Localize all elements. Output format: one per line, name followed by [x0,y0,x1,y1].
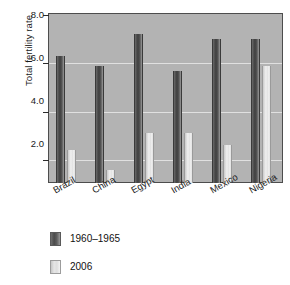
chart-figure: Total fertility rate 8.0 6.0 4.0 2.0 Bra… [0,0,290,285]
y-tick-8 [43,15,49,16]
gridline-4 [49,112,282,113]
bar-nigeria-series1 [251,39,260,183]
bar-nigeria-series2 [262,66,271,183]
y-tick-4 [43,112,49,113]
legend-label-1960-1965: 1960–1965 [70,233,120,244]
bar-china-series1 [95,66,104,183]
legend-swatch-1960-1965 [50,232,61,246]
bar-mexico-series1 [212,39,221,183]
bar-egypt-series1 [134,34,143,183]
gridline-2 [49,160,282,161]
plot-area [48,13,283,183]
y-tick-label-2: 2.0 [31,138,44,149]
y-tick-label-4: 4.0 [31,95,44,106]
bar-brazil-series1 [56,56,65,183]
legend-item-2006: 2006 [50,258,120,275]
legend-item-1960-1965: 1960–1965 [50,230,120,247]
y-tick-6 [43,63,49,64]
legend-label-2006: 2006 [70,261,92,272]
y-tick-2 [43,160,49,161]
y-tick-label-6: 6.0 [31,52,44,63]
bar-india-series1 [173,71,182,183]
y-tick-label-8: 8.0 [31,9,44,20]
gridline-6 [49,63,282,64]
legend-swatch-2006 [50,260,61,274]
chart-legend: 1960–1965 2006 [50,230,120,285]
y-axis-tick-labels: 8.0 6.0 4.0 2.0 [0,0,46,285]
